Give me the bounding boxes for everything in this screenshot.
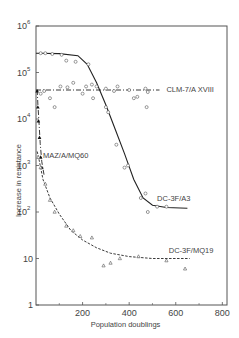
- data-point-circle: [146, 211, 149, 214]
- data-point-circle: [85, 85, 88, 88]
- data-point-circle: [123, 166, 126, 169]
- series-annotation: DC-3F/A3: [157, 194, 190, 203]
- data-point-circle: [145, 106, 148, 109]
- data-point-circle: [48, 97, 51, 100]
- data-point-triangle: [183, 267, 186, 270]
- y-tick-exponent: 4: [27, 112, 31, 118]
- plot-frame: [36, 26, 227, 305]
- data-point-circle: [66, 86, 69, 89]
- y-tick-label: 10: [17, 68, 27, 78]
- y-tick-exponent: 3: [27, 159, 31, 165]
- data-point-circle: [132, 97, 135, 100]
- data-point-circle: [127, 164, 130, 167]
- data-point-circle: [144, 87, 147, 90]
- data-point-circle: [90, 83, 93, 86]
- data-point-circle: [60, 53, 63, 56]
- data-point-triangle: [72, 229, 75, 232]
- data-point-circle: [113, 90, 116, 93]
- data-point-circle: [107, 111, 110, 114]
- data-point-triangle: [36, 105, 40, 108]
- chart-labels: CLM-7/A XVIIIMAZ/A/MQ60DC-3F/A3DC-3F/MQ1…: [43, 85, 214, 256]
- x-tick-label: 600: [168, 308, 183, 318]
- y-tick-label: 10: [23, 254, 33, 264]
- data-point-circle: [156, 205, 159, 208]
- data-point-triangle: [44, 182, 47, 185]
- data-point-triangle: [48, 198, 51, 201]
- data-point-circle: [92, 97, 95, 100]
- data-point-circle: [44, 52, 47, 55]
- data-point-triangle: [65, 224, 68, 227]
- data-point-triangle: [165, 259, 168, 262]
- data-point-circle: [59, 85, 62, 88]
- data-point-triangle: [37, 119, 41, 122]
- data-point-triangle: [90, 236, 93, 239]
- y-tick-exponent: 5: [27, 66, 31, 72]
- data-point-triangle: [38, 136, 42, 139]
- data-point-circle: [115, 143, 118, 146]
- y-tick-label: 10: [17, 21, 27, 31]
- data-point-circle: [116, 85, 119, 88]
- data-point-triangle: [53, 210, 56, 213]
- chart-axes: 200400600800Population doublings11010210…: [14, 19, 230, 329]
- data-point-circle: [139, 197, 142, 200]
- series-line: [36, 53, 187, 208]
- y-tick-exponent: 2: [27, 205, 31, 211]
- resistance-chart: 200400600800Population doublings11010210…: [0, 0, 239, 338]
- data-point-circle: [95, 85, 98, 88]
- data-point-circle: [53, 106, 56, 109]
- series-annotation: DC-3F/MQ19: [169, 246, 214, 255]
- data-point-circle: [146, 91, 149, 94]
- data-point-circle: [43, 90, 46, 93]
- data-point-triangle: [137, 255, 140, 258]
- x-tick-label: 200: [75, 308, 90, 318]
- data-point-circle: [165, 205, 168, 208]
- data-point-circle: [81, 92, 84, 95]
- data-point-circle: [65, 59, 68, 62]
- y-tick-exponent: 6: [27, 19, 31, 25]
- data-point-triangle: [109, 261, 112, 264]
- data-point-circle: [104, 87, 107, 90]
- data-point-triangle: [118, 257, 121, 260]
- y-axis-label: Increase in resistance: [14, 144, 23, 217]
- series-annotation: MAZ/A/MQ60: [43, 151, 88, 160]
- y-tick-label: 1: [28, 300, 33, 310]
- series-line: [37, 90, 44, 176]
- x-tick-label: 800: [215, 308, 230, 318]
- series-annotation: CLM-7/A XVIII: [166, 85, 214, 94]
- y-tick-label: 10: [17, 114, 27, 124]
- data-point-triangle: [37, 156, 40, 159]
- data-point-circle: [39, 52, 42, 55]
- data-point-triangle: [102, 264, 105, 267]
- data-point-circle: [72, 81, 75, 84]
- x-axis-label: Population doublings: [91, 320, 161, 329]
- data-point-circle: [87, 63, 90, 66]
- data-point-circle: [74, 60, 77, 63]
- data-point-circle: [51, 52, 54, 55]
- data-point-circle: [104, 106, 107, 109]
- x-tick-label: 400: [122, 308, 137, 318]
- data-point-circle: [128, 89, 131, 92]
- data-point-circle: [39, 92, 42, 95]
- data-point-circle: [136, 95, 139, 98]
- data-point-triangle: [79, 235, 82, 238]
- data-point-circle: [144, 192, 147, 195]
